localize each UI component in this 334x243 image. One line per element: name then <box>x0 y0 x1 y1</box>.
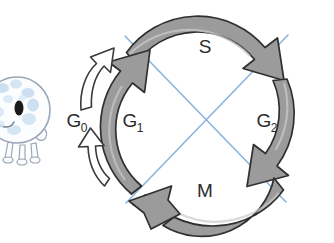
phase-label-s: S <box>199 36 212 57</box>
phase-label-m: M <box>197 180 213 201</box>
cell-cycle-diagram: S G 2 M G 1 G 0 <box>0 0 334 243</box>
cell-cycle-figure: S G 2 M G 1 G 0 <box>0 0 334 243</box>
phase-label-m-text: M <box>197 180 213 201</box>
phase-label-g0-subscript: 0 <box>81 121 88 135</box>
mascot-legs <box>3 142 40 165</box>
phase-label-g1-subscript: 1 <box>137 121 144 135</box>
phase-label-g2-text: G <box>257 110 272 131</box>
phase-label-g0-text: G <box>67 110 82 131</box>
phase-label-s-text: S <box>199 36 212 57</box>
phase-label-g1-text: G <box>123 110 138 131</box>
phase-label-g2-subscript: 2 <box>271 121 278 135</box>
mascot-eye <box>15 101 24 116</box>
